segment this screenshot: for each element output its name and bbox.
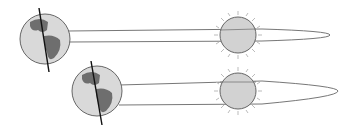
orbit-path — [68, 29, 330, 42]
top-panel — [20, 8, 330, 72]
diagram — [0, 0, 361, 136]
bottom-panel — [72, 61, 338, 125]
sun-icon — [220, 73, 256, 109]
orbit-diagram — [0, 0, 361, 136]
sun-icon — [220, 17, 256, 53]
